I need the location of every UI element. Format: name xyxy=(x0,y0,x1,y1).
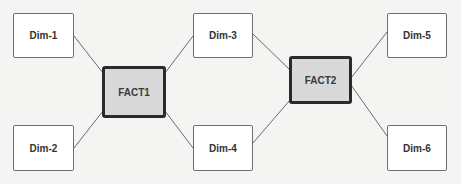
edge-dim6-fact2 xyxy=(351,85,387,136)
dimension-box-dim2[interactable]: Dim-2 xyxy=(13,125,74,171)
edge-dim4-fact2 xyxy=(253,100,290,143)
fact-box-fact1[interactable]: FACT1 xyxy=(102,66,166,118)
dimension-label: Dim-5 xyxy=(403,30,431,41)
fact-label: FACT1 xyxy=(118,87,150,98)
dimension-box-dim3[interactable]: Dim-3 xyxy=(193,13,253,58)
dimension-box-dim5[interactable]: Dim-5 xyxy=(387,13,447,58)
dimension-label: Dim-1 xyxy=(30,30,58,41)
edge-dim5-fact2 xyxy=(351,32,387,78)
dimension-label: Dim-2 xyxy=(30,143,58,154)
dimension-label: Dim-3 xyxy=(209,30,237,41)
edge-dim4-fact1 xyxy=(165,111,193,148)
edge-dim3-fact2 xyxy=(253,34,290,70)
dimension-label: Dim-4 xyxy=(209,143,237,154)
fact-label: FACT2 xyxy=(305,75,337,86)
dimension-box-dim1[interactable]: Dim-1 xyxy=(13,13,74,58)
dimension-label: Dim-6 xyxy=(403,143,431,154)
edge-dim1-fact1 xyxy=(74,36,103,73)
dimension-box-dim6[interactable]: Dim-6 xyxy=(387,125,447,171)
star-schema-diagram: Dim-1 Dim-2 FACT1 Dim-3 Dim-4 FACT2 Dim-… xyxy=(0,0,461,184)
edge-dim2-fact1 xyxy=(74,111,103,148)
fact-box-fact2[interactable]: FACT2 xyxy=(289,56,352,104)
dimension-box-dim4[interactable]: Dim-4 xyxy=(193,125,253,171)
edge-dim3-fact1 xyxy=(165,36,193,73)
